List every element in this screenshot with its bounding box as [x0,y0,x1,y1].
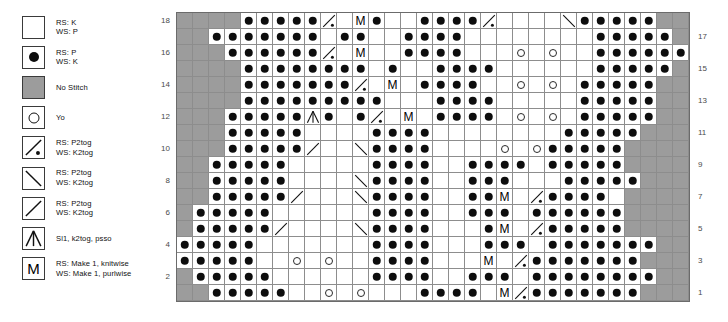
chart-cell [513,205,529,221]
legend-symbol-purl-icon [22,46,45,69]
chart-cell [321,205,337,221]
chart-cell [177,141,193,157]
chart-cell [561,29,577,45]
chart-cell [465,93,481,109]
legend-symbol-knit-icon [22,16,45,39]
chart-cell [401,45,417,61]
chart-cell [465,285,481,301]
chart-cell [465,61,481,77]
chart-cell [353,93,369,109]
chart-cell [337,141,353,157]
chart-cell: M [353,45,369,61]
chart-cell [401,29,417,45]
chart-cell [433,61,449,77]
chart-cell [577,189,593,205]
chart-cell [401,93,417,109]
chart-cell [241,253,257,269]
chart-cell [561,221,577,237]
chart-cell [529,45,545,61]
chart-cell [177,237,193,253]
chart-cell [545,45,561,61]
chart-cell [625,93,641,109]
chart-cell [321,269,337,285]
chart-cell [177,93,193,109]
chart-cell [561,285,577,301]
chart-cell [305,125,321,141]
row-number-left-16: 16 [148,45,170,61]
chart-cell [657,157,673,173]
chart-cell [641,45,657,61]
chart-cell [481,157,497,173]
chart-cell [305,269,321,285]
chart-cell [273,221,289,237]
chart-cell [385,189,401,205]
chart-cell [609,189,625,205]
row-number-right-11: 11 [698,125,720,141]
chart-cell [193,285,209,301]
chart-cell [481,221,497,237]
chart-cell [673,221,689,237]
chart-cell [641,189,657,205]
legend-symbol-sl1-k2tog-psso-icon [22,227,45,250]
chart-cell [417,93,433,109]
chart-cell [337,29,353,45]
chart-cell [529,29,545,45]
chart-cell [641,29,657,45]
chart-cell [561,157,577,173]
chart-cell [337,77,353,93]
chart-cell [241,237,257,253]
chart-cell [369,205,385,221]
chart-cell [273,125,289,141]
chart-cell [401,253,417,269]
chart-cell [561,45,577,61]
chart-cell [209,29,225,45]
chart-cell [305,221,321,237]
chart-cell [337,157,353,173]
chart-cell [289,125,305,141]
legend-label-p2tog-left: RS: P2tog WS: K2tog [56,168,93,187]
chart-cell [529,173,545,189]
chart-cell [177,45,193,61]
chart-cell [561,109,577,125]
chart-cell [625,237,641,253]
chart-cell [385,269,401,285]
chart-cell [321,13,337,29]
chart-cell [209,13,225,29]
chart-cell [241,13,257,29]
chart-cell [321,285,337,301]
chart-cell [641,125,657,141]
chart-cell [657,77,673,93]
chart-cell [401,13,417,29]
chart-cell [369,141,385,157]
chart-cell [529,13,545,29]
chart-cell [641,269,657,285]
chart-cell [193,141,209,157]
chart-cell [609,45,625,61]
chart-cell [273,253,289,269]
chart-cell [433,141,449,157]
chart-cell: M [481,253,497,269]
chart-cell [529,269,545,285]
chart-cell [577,13,593,29]
chart-cell [497,77,513,93]
chart-cell [289,29,305,45]
chart-cell [577,157,593,173]
chart-cell [449,77,465,93]
chart-cell [625,189,641,205]
chart-cell [177,253,193,269]
chart-cell [225,221,241,237]
chart-cell [513,13,529,29]
chart-cell [449,189,465,205]
chart-cell [449,157,465,173]
chart-cell [241,77,257,93]
chart-cell [369,125,385,141]
chart-cell [593,237,609,253]
chart-cell [369,269,385,285]
chart-cell [529,253,545,269]
chart-cell [209,45,225,61]
chart-cell [513,109,529,125]
chart-cell [273,269,289,285]
chart-cell [593,141,609,157]
chart-cell [193,173,209,189]
chart-cell [257,77,273,93]
